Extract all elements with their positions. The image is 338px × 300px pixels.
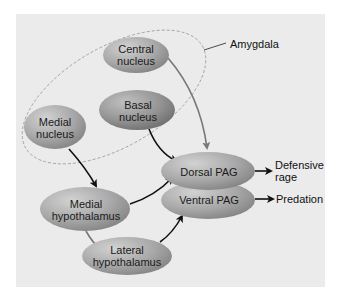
output-predation: Predation (276, 193, 323, 205)
label-line: Medial (36, 116, 74, 128)
label-line: hypothalamus (93, 256, 162, 268)
label-medial-nucleus: Medial nucleus (36, 116, 74, 140)
label-line: Defensive (275, 159, 324, 171)
label-basal-nucleus: Basal nucleus (119, 99, 157, 123)
label-line: Basal (119, 99, 157, 111)
edge-lateralhyp-to-ventral (160, 216, 182, 242)
label-line: nucleus (36, 128, 74, 140)
label-line: nucleus (119, 111, 157, 123)
label-line: nucleus (117, 55, 155, 67)
edge-basal-to-dorsal (149, 129, 176, 161)
edge-central-to-dorsal (168, 58, 207, 148)
diagram-canvas (0, 0, 338, 300)
label-line: rage (275, 171, 324, 183)
output-defensive-rage: Defensive rage (275, 159, 324, 183)
label-medial-hypothalamus: Medial hypothalamus (52, 198, 121, 222)
amygdala-leader-line (204, 43, 226, 50)
label-line: hypothalamus (52, 210, 121, 222)
label-line: Medial (52, 198, 121, 210)
label-central-nucleus: Central nucleus (117, 43, 155, 67)
label-line: Central (117, 43, 155, 55)
label-ventral-pag: Ventral PAG (179, 194, 239, 206)
amygdala-label: Amygdala (230, 38, 279, 50)
label-dorsal-pag: Dorsal PAG (180, 166, 237, 178)
label-line: Lateral (93, 244, 162, 256)
label-lateral-hypothalamus: Lateral hypothalamus (93, 244, 162, 268)
edge-medialnuc-to-medialhyp (69, 149, 96, 186)
